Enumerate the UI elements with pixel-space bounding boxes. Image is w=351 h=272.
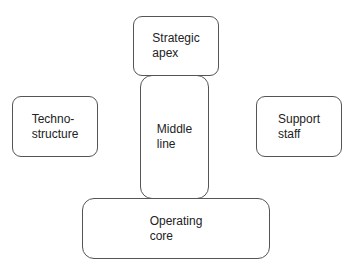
techno-structure-box: Techno- structure (12, 96, 98, 157)
strategic-apex-label: Strategic apex (152, 31, 199, 61)
middle-line-label: Middle line (157, 122, 192, 152)
techno-structure-label: Techno- structure (32, 112, 79, 142)
support-staff-box: Support staff (256, 96, 342, 157)
operating-core-label: Operating core (150, 214, 203, 244)
middle-line-box: Middle line (140, 75, 209, 199)
org-structure-diagram: Strategic apex Middle line Operating cor… (0, 0, 351, 272)
strategic-apex-box: Strategic apex (133, 16, 219, 76)
support-staff-label: Support staff (278, 112, 320, 142)
operating-core-box: Operating core (82, 198, 270, 259)
